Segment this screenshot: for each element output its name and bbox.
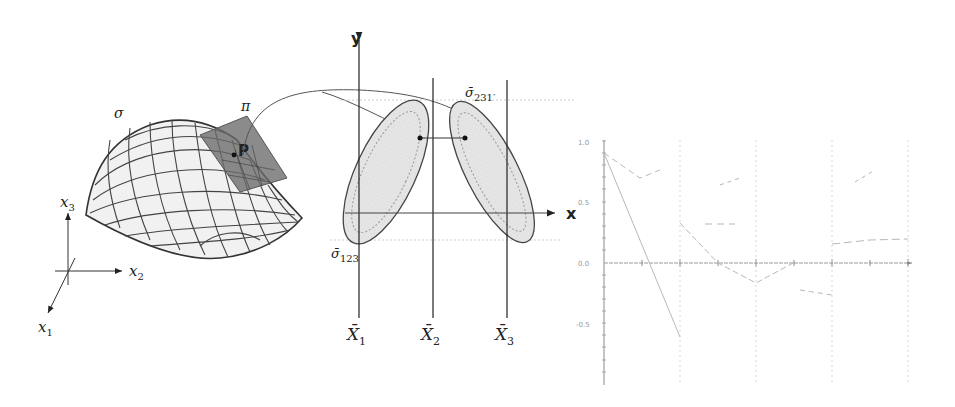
point-p-dot xyxy=(232,153,237,158)
parallel-panel: y x σ̄231′ σ̄123 X̄1 X̄2 X̄3 xyxy=(326,29,577,348)
axis-label-x1bar: X̄1 xyxy=(345,323,366,348)
sigma-123-label: σ̄123 xyxy=(331,246,359,264)
surface-sigma xyxy=(86,120,302,258)
series-dashed-3 xyxy=(800,290,832,295)
y-tick-0-5: 0.5 xyxy=(578,199,589,207)
x-axis-label: x xyxy=(566,204,577,223)
ellipse-sigma-123 xyxy=(326,89,446,256)
plane-label-pi: π xyxy=(240,98,251,114)
x1-axis xyxy=(48,258,75,313)
axis-label-x2bar: X̄2 xyxy=(419,323,440,348)
point-231 xyxy=(463,136,468,141)
x2-label: x2 xyxy=(129,262,144,282)
series-solid xyxy=(604,153,680,337)
plot-panel: 1.0 0.5 0.0 -0.5 xyxy=(576,139,912,385)
x1-label: x1 xyxy=(38,318,53,338)
axis-label-x3bar: X̄3 xyxy=(493,323,514,348)
y-tick-1: 1.0 xyxy=(578,139,589,147)
ellipse-sigma-231 xyxy=(433,91,550,254)
surface-panel: P σ π x3 x2 x1 xyxy=(38,98,302,338)
figure-canvas: P σ π x3 x2 x1 xyxy=(0,0,955,407)
point-123 xyxy=(418,136,423,141)
x3-label: x3 xyxy=(60,193,75,213)
y-tick-neg-0-5: -0.5 xyxy=(576,321,590,329)
series-dashed-1 xyxy=(680,223,795,283)
surface-label-sigma: σ xyxy=(114,105,124,121)
series-dashed-4 xyxy=(832,239,908,244)
y-tick-0: 0.0 xyxy=(578,260,589,268)
y-axis-label: y xyxy=(351,29,362,48)
